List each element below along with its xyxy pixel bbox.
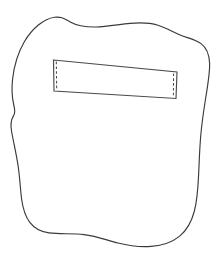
blob-outline-path (11, 17, 210, 247)
shape-diagram-svg (0, 0, 224, 260)
figure-canvas (0, 0, 224, 260)
